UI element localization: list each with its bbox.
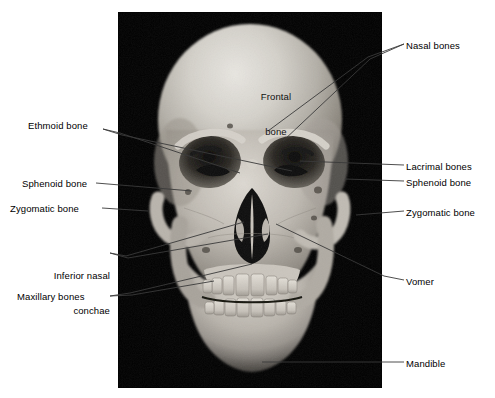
label-maxillary-bones: Maxillary bones bbox=[17, 291, 85, 303]
skull-image bbox=[118, 12, 382, 388]
label-inferior-nasal-conchae-line2: conchae bbox=[32, 305, 110, 317]
label-zygomatic-bone-right: Zygomatic bone bbox=[406, 207, 475, 219]
label-inferior-nasal-conchae-line1: Inferior nasal bbox=[32, 270, 110, 282]
label-mandible: Mandible bbox=[406, 358, 445, 370]
label-zygomatic-bone-left: Zygomatic bone bbox=[10, 203, 79, 215]
label-frontal-bone-line2: bone bbox=[252, 126, 300, 138]
label-frontal-bone-line1: Frontal bbox=[252, 91, 300, 103]
label-sphenoid-bone-left: Sphenoid bone bbox=[22, 178, 87, 190]
label-nasal-bones: Nasal bones bbox=[406, 40, 460, 52]
label-sphenoid-bone-right: Sphenoid bone bbox=[406, 177, 471, 189]
skull-anatomy-figure: Frontal bone Nasal bones Ethmoid bone La… bbox=[0, 0, 495, 398]
label-lacrimal-bones: Lacrimal bones bbox=[406, 161, 472, 173]
label-frontal-bone: Frontal bone bbox=[252, 68, 300, 160]
skull-photograph-panel bbox=[118, 12, 382, 388]
label-ethmoid-bone: Ethmoid bone bbox=[28, 120, 88, 132]
label-vomer: Vomer bbox=[406, 276, 434, 288]
